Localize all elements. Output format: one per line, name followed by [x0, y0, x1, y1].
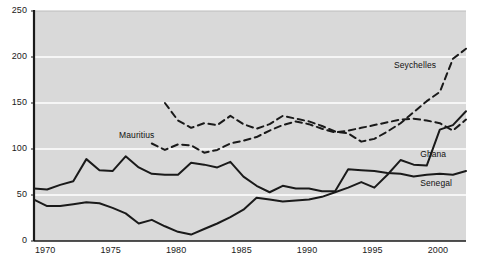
- series-label-seychelles: Seychelles: [394, 60, 436, 70]
- series-label-ghana: Ghana: [420, 149, 446, 159]
- y-axis-tick-label: 100: [0, 143, 27, 153]
- x-axis-tick-label: 1970: [35, 245, 55, 255]
- y-axis-tick-label: 200: [0, 51, 27, 61]
- y-axis-tick-label: 150: [0, 97, 27, 107]
- x-axis-tick-label: 1985: [231, 245, 251, 255]
- x-axis-tick-label: 2000: [428, 245, 448, 255]
- x-axis-tick-label: 1980: [166, 245, 186, 255]
- x-axis-tick-label: 1995: [362, 245, 382, 255]
- x-axis-tick-label: 1990: [297, 245, 317, 255]
- series-label-mauritius: Mauritius: [119, 130, 154, 140]
- y-axis-tick-label: 250: [0, 5, 27, 15]
- chart-plot-area: [0, 0, 477, 264]
- line-chart: 050100150200250 197019751980198519901995…: [0, 0, 477, 264]
- y-axis-tick-label: 0: [0, 235, 27, 245]
- x-axis-tick-label: 1975: [100, 245, 120, 255]
- series-label-senegal: Senegal: [420, 178, 452, 188]
- y-axis-tick-label: 50: [0, 189, 27, 199]
